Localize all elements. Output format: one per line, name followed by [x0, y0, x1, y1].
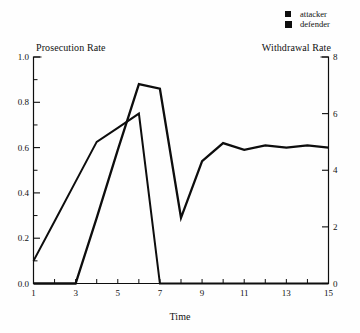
legend-item-defender: defender — [285, 19, 338, 29]
right-axis-tick-label: 0 — [333, 279, 338, 289]
x-axis-tick-label: 3 — [73, 288, 78, 298]
right-axis-tick-label: 4 — [333, 165, 338, 175]
legend-label: attacker — [300, 9, 338, 19]
legend-item-attacker: attacker — [285, 9, 338, 19]
x-axis-tick-label: 9 — [200, 288, 205, 298]
legend: attacker defender — [285, 9, 338, 29]
defender-square-icon — [285, 21, 292, 28]
series-line-defender — [34, 114, 329, 284]
x-axis-title: Time — [0, 311, 360, 322]
x-axis-tick-label: 1 — [31, 288, 36, 298]
left-axis-tick-label: 0.2 — [18, 233, 29, 243]
left-axis-tick-label: 1.0 — [18, 52, 30, 62]
attacker-square-icon — [285, 11, 291, 17]
left-axis-title: Prosecution Rate — [36, 42, 106, 53]
x-axis-tick-label: 5 — [116, 288, 121, 298]
axes-frame — [34, 57, 329, 284]
left-axis-tick-label: 0.8 — [18, 97, 30, 107]
x-axis-tick-label: 7 — [158, 288, 163, 298]
left-axis-tick-label: 0.6 — [18, 143, 30, 153]
right-axis-title: Withdrawal Rate — [262, 42, 331, 53]
right-axis-tick-label: 8 — [333, 52, 338, 62]
x-axis-tick-label: 15 — [324, 288, 334, 298]
right-axis-tick-label: 6 — [333, 109, 338, 119]
x-axis-tick-label: 11 — [240, 288, 249, 298]
chart-figure: 0.00.20.40.60.81.00246813579111315 Prose… — [0, 0, 360, 333]
series-line-attacker — [34, 84, 329, 283]
left-axis-tick-label: 0.0 — [18, 279, 30, 289]
legend-label: defender — [300, 19, 338, 29]
x-axis-tick-label: 13 — [282, 288, 292, 298]
left-axis-tick-label: 0.4 — [18, 188, 30, 198]
right-axis-tick-label: 2 — [333, 222, 338, 232]
